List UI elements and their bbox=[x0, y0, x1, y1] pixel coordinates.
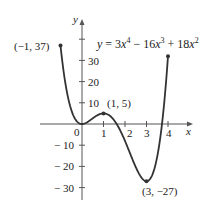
y-axis-label: y bbox=[73, 14, 78, 25]
y-tick-label-30: 30 bbox=[88, 56, 99, 67]
data-point-marker bbox=[59, 44, 63, 48]
annotation-left-endpoint: (−1, 37) bbox=[14, 41, 50, 52]
equation-label: y = 3x4 − 16x3 + 18x2 bbox=[97, 38, 199, 50]
eq-pow: 2 bbox=[195, 36, 199, 45]
eq-part: = 3 bbox=[102, 37, 121, 51]
origin-label: 0 bbox=[74, 127, 80, 138]
data-point-marker bbox=[145, 179, 149, 183]
annotation-local-min: (3, −27) bbox=[142, 186, 178, 197]
annotation-local-max: (1, 5) bbox=[107, 98, 131, 109]
x-tick-label-4: 4 bbox=[166, 128, 172, 139]
chart-figure: y x 0 1 2 3 4 30 20 10 − 10 − 20 − 30 (−… bbox=[0, 0, 219, 217]
data-point-marker bbox=[166, 54, 170, 58]
x-tick-label-3: 3 bbox=[144, 128, 150, 139]
y-tick-label-20: 20 bbox=[88, 77, 99, 88]
eq-part: − 16 bbox=[130, 37, 155, 51]
data-point-marker bbox=[102, 111, 106, 115]
y-axis-arrow-icon bbox=[80, 19, 85, 25]
y-tick-label-neg30: − 30 bbox=[54, 183, 74, 194]
y-tick-label-neg10: − 10 bbox=[54, 140, 74, 151]
x-axis-label: x bbox=[186, 126, 191, 137]
function-curve bbox=[61, 46, 169, 182]
y-tick-label-10: 10 bbox=[88, 98, 99, 109]
y-tick-label-neg20: − 20 bbox=[54, 161, 74, 172]
x-tick-label-1: 1 bbox=[101, 128, 107, 139]
eq-part: + 18 bbox=[165, 37, 190, 51]
x-tick-label-2: 2 bbox=[127, 128, 133, 139]
